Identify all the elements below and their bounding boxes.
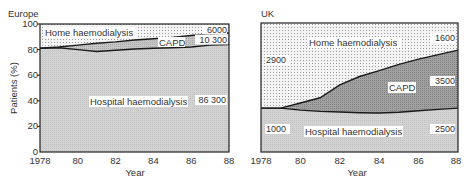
uk-x-axis: 1978 80 82 84 86 88 (250, 155, 461, 166)
x-tick-80: 80 (295, 155, 306, 166)
europe-hospital-label: Hospital haemodialysis (90, 96, 187, 107)
europe-home-label: Home haemodialysis (45, 27, 133, 38)
x-tick-84: 84 (148, 155, 159, 166)
x-tick-1978: 1978 (29, 155, 50, 166)
x-tick-82: 82 (110, 155, 121, 166)
x-tick-1978: 1978 (250, 155, 271, 166)
uk-x-axis-label: Year (347, 167, 366, 178)
uk-hospital-start-count: 1000 (266, 124, 286, 134)
figure: Europe 100 80 60 40 20 0 Patients (%) 1 (0, 0, 469, 187)
uk-home-start-count: 2900 (266, 55, 286, 65)
europe-hospital-count: 86 300 (198, 95, 226, 105)
y-tick-100: 100 (22, 18, 38, 29)
uk-home-label: Home haemodialysis (309, 37, 397, 48)
x-tick-82: 82 (335, 155, 346, 166)
x-tick-88: 88 (224, 155, 235, 166)
x-tick-88: 88 (451, 155, 462, 166)
europe-capd-count: 10 300 (199, 35, 227, 45)
y-tick-80: 80 (27, 44, 38, 55)
europe-x-axis: 1978 80 82 84 86 88 (29, 155, 234, 166)
uk-home-end-count: 1600 (435, 33, 455, 43)
uk-panel: UK 1978 80 82 84 86 88 Year Home haemodi… (250, 8, 461, 178)
x-tick-86: 86 (186, 155, 197, 166)
europe-home-count: 6000 (207, 25, 227, 35)
uk-hospital-end-count: 2500 (435, 124, 455, 134)
y-tick-20: 20 (27, 120, 38, 131)
y-tick-40: 40 (27, 95, 38, 106)
europe-x-axis-label: Year (125, 167, 144, 178)
uk-hospital-label: Hospital haemodialysis (305, 126, 402, 137)
uk-capd-label: CAPD (389, 82, 416, 93)
uk-title: UK (261, 8, 275, 19)
europe-y-axis-label: Patients (%) (8, 62, 19, 114)
europe-capd-label: CAPD (159, 37, 186, 48)
x-tick-80: 80 (73, 155, 84, 166)
europe-panel: Europe 100 80 60 40 20 0 Patients (%) 1 (8, 8, 234, 178)
x-tick-84: 84 (374, 155, 385, 166)
x-tick-86: 86 (413, 155, 424, 166)
y-tick-60: 60 (27, 69, 38, 80)
uk-capd-end-count: 3500 (435, 76, 455, 86)
europe-y-axis: 100 80 60 40 20 0 (22, 18, 40, 157)
